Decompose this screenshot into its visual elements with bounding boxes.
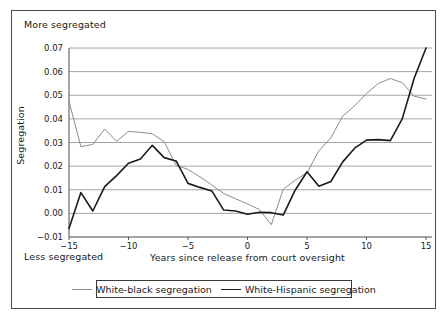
svg-text:0.06: 0.06 — [44, 67, 63, 77]
less-segregated-annotation: Less segregated — [24, 251, 103, 262]
svg-text:0.01: 0.01 — [44, 185, 63, 195]
chart-legend: White-black segregation White-Hispanic s… — [96, 280, 352, 298]
legend-label-white-black: White-black segregation — [96, 284, 212, 295]
svg-text:5: 5 — [304, 241, 309, 251]
gridlines — [69, 48, 432, 237]
more-segregated-annotation: More segregated — [24, 19, 106, 30]
svg-text:0.03: 0.03 — [44, 138, 63, 148]
legend-line-swatch-white-black — [72, 289, 92, 290]
legend-entry-white-black: White-black segregation — [72, 284, 212, 295]
svg-text:−15: −15 — [60, 241, 78, 251]
y-axis-title: Segregation — [15, 96, 26, 176]
svg-text:0.02: 0.02 — [44, 161, 63, 171]
figure-container: −0.010.000.010.020.030.040.050.060.07 −1… — [0, 0, 447, 320]
chart-plot-area: −0.010.000.010.020.030.040.050.060.07 −1… — [0, 0, 447, 320]
svg-text:0.07: 0.07 — [44, 43, 63, 53]
x-tick-labels: −15−10−5051015 — [60, 241, 431, 251]
legend-label-white-hispanic: White-Hispanic segregation — [245, 284, 376, 295]
legend-line-swatch-white-hispanic — [221, 289, 241, 290]
x-axis-title: Years since release from court oversight — [150, 252, 345, 263]
svg-text:−5: −5 — [182, 241, 195, 251]
svg-text:0.04: 0.04 — [44, 114, 63, 124]
svg-text:0: 0 — [245, 241, 250, 251]
legend-entry-white-hispanic: White-Hispanic segregation — [221, 284, 376, 295]
svg-text:15: 15 — [421, 241, 432, 251]
svg-text:−10: −10 — [120, 241, 138, 251]
svg-text:10: 10 — [361, 241, 372, 251]
data-series-lines — [69, 48, 426, 229]
y-tick-labels: −0.010.000.010.020.030.040.050.060.07 — [37, 43, 63, 242]
svg-text:0.00: 0.00 — [44, 208, 63, 218]
svg-text:0.05: 0.05 — [44, 90, 63, 100]
